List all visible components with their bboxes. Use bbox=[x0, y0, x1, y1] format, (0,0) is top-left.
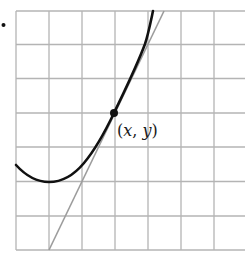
curve bbox=[16, 11, 153, 182]
bullet-marker bbox=[2, 23, 6, 27]
label-close-paren: ) bbox=[152, 121, 158, 140]
graph-canvas: (x, y) bbox=[0, 0, 245, 256]
label-x: x bbox=[123, 121, 132, 140]
point-label: (x, y) bbox=[117, 121, 158, 140]
tangent-line-figure: (x, y) bbox=[0, 0, 245, 256]
point-of-tangency bbox=[110, 109, 118, 117]
label-separator: , bbox=[132, 121, 142, 140]
